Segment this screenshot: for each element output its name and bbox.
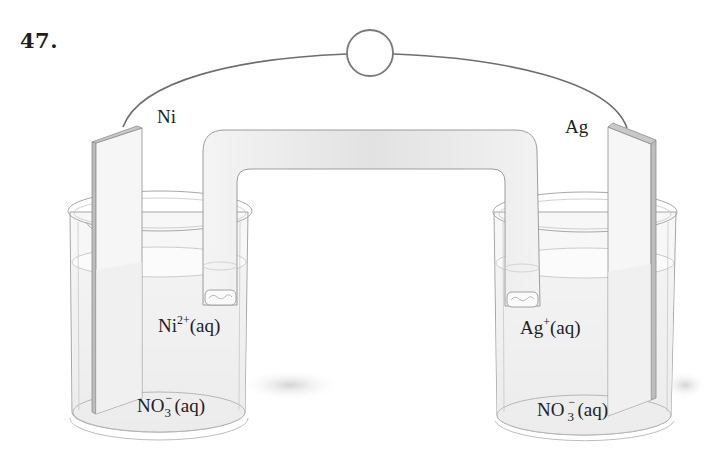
nitrate-subscript-left: 3 bbox=[164, 406, 171, 419]
silver-electrode-label: Ag bbox=[565, 117, 588, 136]
silver-electrode bbox=[608, 123, 656, 416]
nickel-electrode bbox=[92, 126, 142, 414]
galvanic-cell-figure: 47. Ni Ag Ni2+(aq) Ag+(aq) NO−3(aq) NO−3… bbox=[0, 0, 709, 457]
silver-ion-label: Ag+(aq) bbox=[520, 318, 581, 337]
nitrate-charge-left: − bbox=[165, 392, 172, 404]
nickel-ion-label: Ni2+(aq) bbox=[158, 316, 220, 335]
nickel-electrode-label: Ni bbox=[157, 107, 176, 126]
salt-bridge bbox=[203, 130, 540, 307]
galvanic-cell-drawing bbox=[0, 0, 709, 457]
silver-ion-state: (aq) bbox=[550, 317, 581, 338]
nickel-ion-base: Ni bbox=[158, 315, 177, 336]
nitrate-base-right: NO bbox=[537, 399, 564, 420]
silver-ion-base: Ag bbox=[520, 317, 543, 338]
nitrate-ion-label-left: NO−3(aq) bbox=[137, 396, 205, 415]
nickel-ion-state: (aq) bbox=[190, 315, 221, 336]
nitrate-base-left: NO bbox=[137, 395, 164, 416]
nickel-ion-charge: 2+ bbox=[177, 313, 190, 327]
nitrate-subscript-right: 3 bbox=[567, 410, 574, 423]
nitrate-state-left: (aq) bbox=[174, 395, 205, 416]
nitrate-state-right: (aq) bbox=[577, 399, 608, 420]
voltmeter-icon bbox=[347, 30, 393, 76]
silver-ion-charge: + bbox=[543, 315, 550, 329]
question-number: 47. bbox=[20, 28, 58, 53]
nitrate-charge-right: − bbox=[568, 396, 575, 408]
nitrate-ion-label-right: NO−3(aq) bbox=[537, 400, 608, 419]
